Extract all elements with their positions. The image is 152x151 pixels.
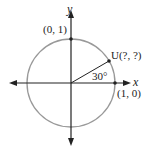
point-top-label: (0, 1) bbox=[43, 23, 67, 36]
unit-circle-diagram: y x (0, 1) (1, 0) U(?, ?) 30° bbox=[0, 0, 152, 151]
x-axis-right-arrow-icon bbox=[123, 80, 131, 86]
point-right-label: (1, 0) bbox=[117, 87, 141, 100]
angle-label: 30° bbox=[92, 70, 107, 82]
y-axis-down-arrow-icon bbox=[68, 138, 74, 146]
point-u-label: U(?, ?) bbox=[111, 49, 142, 62]
x-axis-left-arrow-icon bbox=[9, 80, 17, 86]
point-right bbox=[113, 81, 117, 85]
point-top bbox=[69, 37, 73, 41]
y-axis-label: y bbox=[66, 2, 73, 16]
